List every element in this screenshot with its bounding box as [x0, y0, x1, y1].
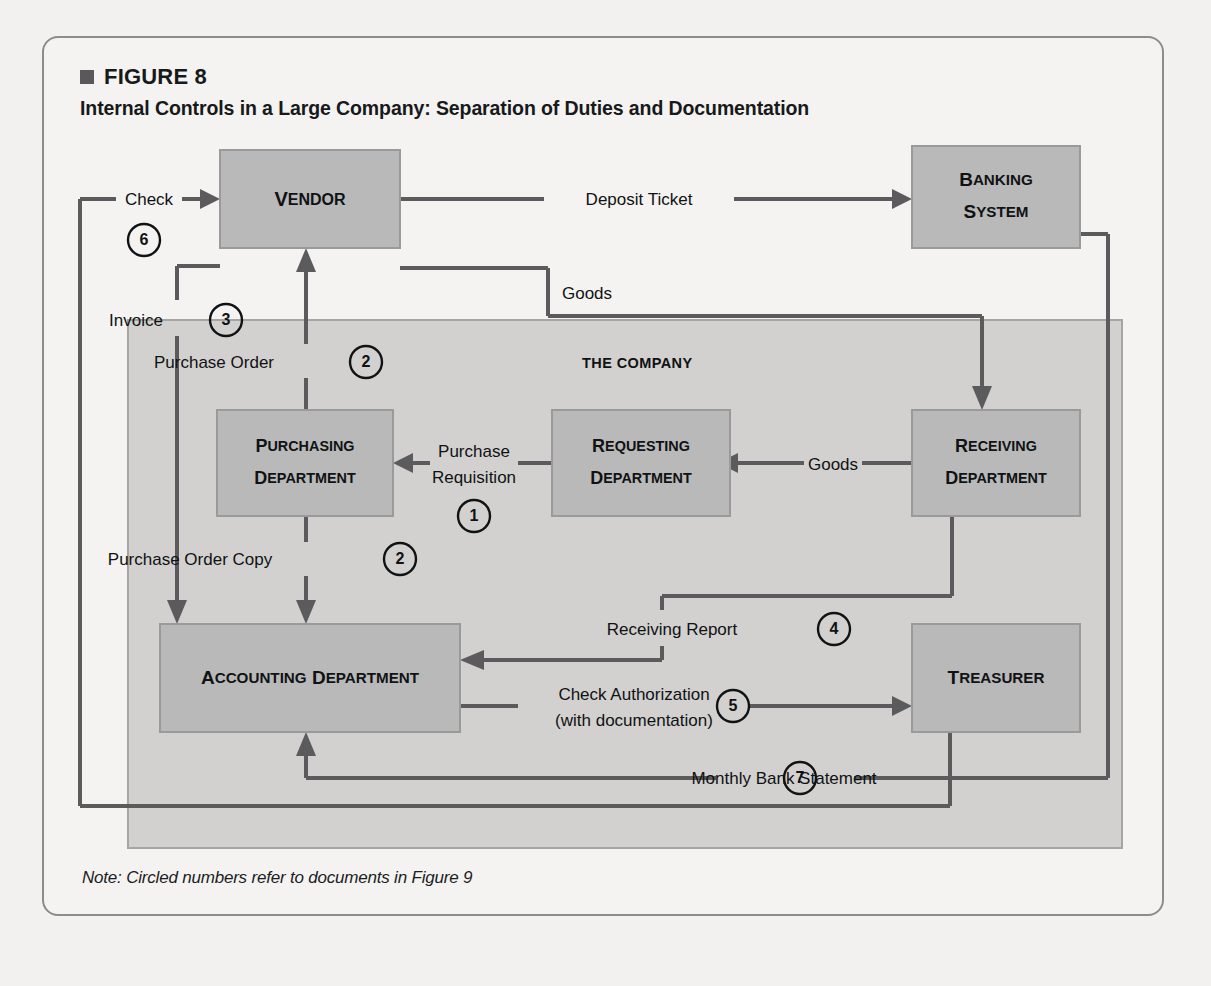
step-marker-2-label: 2 [362, 353, 371, 370]
edge-label-purchase-requisition-line1: Purchase [438, 442, 510, 461]
edge-label-invoice: Invoice [109, 311, 163, 330]
internal-controls-flow-diagram: THE COMPANY [44, 38, 1166, 918]
company-boundary [128, 320, 1122, 848]
edge-label-check-authorization-line1: Check Authorization [558, 685, 709, 704]
node-requesting-department-label-line2: DEPARTMENT [590, 468, 692, 488]
node-banking-system-label-line2: SYSTEM [963, 201, 1028, 222]
step-marker-7-label: 7 [796, 769, 805, 786]
step-marker-2b-label: 2 [396, 550, 405, 567]
node-vendor-label: VENDOR [274, 188, 346, 210]
edge-label-check-authorization-line2: (with documentation) [555, 711, 713, 730]
figure-note: Note: Circled numbers refer to documents… [82, 868, 472, 888]
edge-label-deposit-ticket: Deposit Ticket [586, 190, 693, 209]
company-boundary-label: THE COMPANY [582, 355, 692, 371]
node-receiving-department[interactable] [912, 410, 1080, 516]
node-receiving-department-label-line1: RECEIVING [955, 436, 1037, 456]
step-marker-4-label: 4 [830, 620, 839, 637]
edge-label-goods-top: Goods [562, 284, 612, 303]
check-arrowhead [200, 189, 220, 209]
step-marker-6-label: 6 [140, 231, 149, 248]
purchase-order-arrowhead [296, 248, 316, 272]
node-banking-system-label-line1: BANKING [959, 169, 1033, 190]
edge-label-goods-mid: Goods [808, 455, 858, 474]
figure-card: FIGURE 8 Internal Controls in a Large Co… [42, 36, 1164, 916]
node-purchasing-department-label-line1: PURCHASING [255, 436, 354, 456]
node-purchasing-department-label-line2: DEPARTMENT [254, 468, 356, 488]
edge-label-check: Check [125, 190, 174, 209]
node-accounting-department-label: ACCOUNTING DEPARTMENT [201, 667, 420, 688]
edge-label-purchase-requisition-line2: Requisition [432, 468, 516, 487]
edge-label-purchase-order-copy: Purchase Order Copy [108, 550, 273, 569]
step-marker-1-label: 1 [470, 507, 479, 524]
node-banking-system[interactable] [912, 146, 1080, 248]
step-marker-3-label: 3 [222, 311, 231, 328]
deposit-ticket-arrowhead [892, 189, 912, 209]
node-requesting-department[interactable] [552, 410, 730, 516]
node-treasurer-label: TREASURER [948, 667, 1045, 688]
edge-label-purchase-order: Purchase Order [154, 353, 274, 372]
node-requesting-department-label-line1: REQUESTING [592, 436, 690, 456]
node-purchasing-department[interactable] [217, 410, 393, 516]
figure-page: FIGURE 8 Internal Controls in a Large Co… [0, 0, 1211, 986]
step-marker-5-label: 5 [729, 697, 738, 714]
node-receiving-department-label-line2: DEPARTMENT [945, 468, 1047, 488]
edge-label-receiving-report: Receiving Report [607, 620, 738, 639]
